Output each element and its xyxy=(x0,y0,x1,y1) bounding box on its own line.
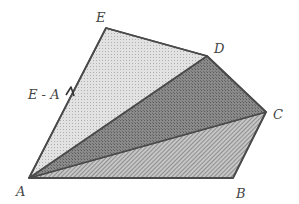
vertex-label-a: A xyxy=(15,184,25,199)
vertex-label-d: D xyxy=(213,41,225,56)
vertex-label-c: C xyxy=(273,107,283,122)
pentagon-diagram: E - A A B C D E xyxy=(0,0,299,204)
vertex-label-b: B xyxy=(235,186,246,201)
arrow-icon xyxy=(66,87,74,96)
vertex-label-e: E xyxy=(95,10,106,25)
edge-label-e-minus-a: E - A xyxy=(27,87,60,102)
